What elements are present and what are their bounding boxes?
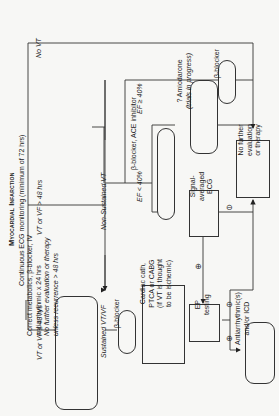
text-line: β-blocker, ACE inhibitor [130,97,139,170]
text-line: antiarrhythmic x 24 hrs [34,235,43,336]
text-line: β-blocker [213,49,222,78]
negative-symbol: ⊖ [226,203,233,212]
node-no-further-evaluation: No further evaluation or therapy [236,140,270,198]
text-line: unless recurrence > 48 hrs [51,235,60,336]
node-antiarrhythmic-icd: Antiarrhythmic(s) and/or ICD [245,322,275,384]
node-early-treatment: Correct metabolics, β-blocker, IV antiar… [55,296,98,410]
text-line: Signal- [189,172,198,201]
label-ef-low: EF < 40% [136,171,145,202]
text-line: Antiarrhythmic(s) [234,292,243,345]
node-amiodarone: ? Amiodarone (trials in progress) [190,80,218,154]
node-ep-testing: EP testing [189,304,220,342]
positive-symbol: ⊕ [226,334,233,343]
text-line: (trials in progress) [185,52,194,108]
text-line: and/or ICD [242,292,251,345]
text-line: testing [203,294,212,315]
text-line: No further evaluation or therapy [43,235,52,336]
text-line: No further [237,124,246,156]
positive-symbol: ⊕ [195,262,202,271]
text-line: β-blocker [113,299,122,328]
label-no-vt: No VT [35,38,44,58]
node-cardiac-cath: Cardiac cath, PTCA or CABG (if VT is tho… [142,285,185,364]
text-line: ECG [206,172,215,201]
node-signal-averaged-ecg: Signal- averaged ECG [189,190,219,237]
text-line: PTCA or CABG [148,259,157,308]
text-line: Cardiac cath, [139,259,148,308]
text-line: ? Amiodarone [176,52,185,108]
node-beta-blocker-ace: β-blocker, ACE inhibitor [157,128,175,220]
text-line: to be ischemic) [165,259,174,308]
node-beta-blocker-ef-high: β-blocker [218,60,236,104]
text-line: Correct metabolics, β-blocker, IV [26,235,35,336]
text-line: or therapy [254,124,263,156]
label-sustained: Sustained VT/VF [100,305,109,358]
node-beta-blocker-sustained: β-blocker [118,310,136,354]
label-late: VT or VF > 48 hrs [36,180,45,235]
text-line: EP [194,294,203,315]
text-line: (if VT is thought [156,259,165,308]
diagram-title: Myocardial Infarction [8,172,17,246]
negative-symbol: ⊖ [226,300,233,309]
text-line: evaluation [246,124,255,156]
label-non-sustained: Non-Sustained VT [100,173,109,230]
